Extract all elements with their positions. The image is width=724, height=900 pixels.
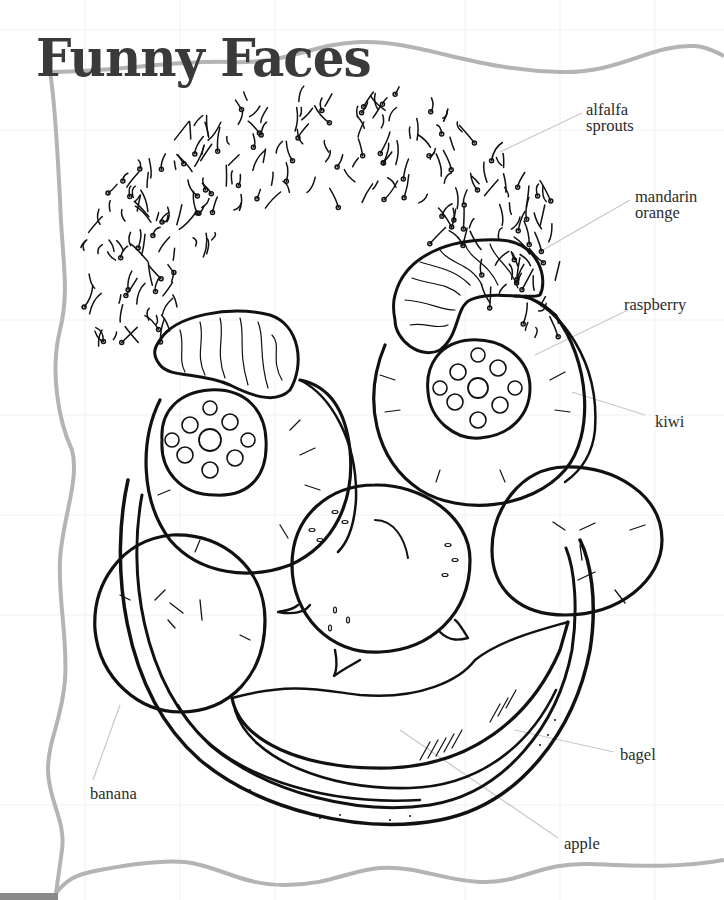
sprout-strand	[148, 262, 152, 285]
coloring-page: Funny Faces alfalfa sprouts mandarin ora…	[0, 0, 724, 900]
sprout-strand	[389, 108, 397, 121]
sprout-strand	[481, 284, 490, 303]
sprout-strand	[265, 192, 280, 208]
banana-slice-icon-right	[492, 467, 662, 615]
sprout-strand	[109, 201, 110, 212]
sprout-strand	[469, 219, 474, 228]
label-mandarin-orange: mandarin orange	[635, 189, 697, 221]
sprout-strand	[238, 111, 242, 125]
apple-wedge-icon	[232, 622, 568, 788]
sprout-strand	[231, 171, 232, 184]
label-apple: apple	[564, 836, 600, 852]
sprout-strand	[122, 327, 138, 342]
label-bagel: bagel	[620, 747, 656, 763]
sprout-strand	[261, 108, 268, 123]
sprout-strand	[129, 232, 131, 245]
sprout-strand	[534, 213, 541, 229]
sprout-strand	[177, 155, 192, 172]
label-alfalfa-sprouts: alfalfa sprouts	[586, 102, 634, 134]
sprout-strand	[418, 135, 431, 148]
sprout-strand	[419, 194, 428, 203]
sprout-strand	[98, 245, 102, 254]
sprout-strand	[524, 221, 529, 244]
sprout-strand	[122, 210, 125, 221]
mandarin-segment-icon-left	[155, 311, 298, 397]
mandarin-segment-icon-right	[394, 240, 543, 353]
alfalfa-sprouts-icon	[81, 86, 560, 346]
sprout-strand	[535, 328, 537, 338]
sprout-strand	[381, 115, 383, 128]
sprout-strand	[500, 205, 503, 226]
sprout-strand	[276, 141, 282, 153]
sprout-strand	[286, 163, 288, 182]
leader-banana	[93, 705, 120, 780]
sprout-strand	[194, 116, 203, 126]
sprout-strand	[300, 108, 301, 117]
sprout-strand	[156, 213, 158, 221]
sprout-strand	[535, 232, 542, 251]
sprout-strand	[295, 107, 297, 131]
sprout-strand	[403, 159, 408, 179]
sprout-strand	[217, 128, 219, 152]
sprout-strand	[179, 212, 196, 229]
kiwi-slice-icon-left	[146, 380, 356, 573]
sprout-strand	[375, 94, 379, 110]
sprout-strand	[272, 172, 274, 185]
sprout-strand	[549, 224, 552, 242]
sprout-strand	[193, 238, 196, 246]
sprout-strand	[522, 269, 533, 290]
sprout-strand	[307, 177, 315, 192]
sprout-strand	[227, 136, 229, 144]
sprout-strand	[330, 188, 339, 207]
label-banana: banana	[90, 786, 137, 802]
sprout-strand	[250, 106, 260, 117]
sprout-strand	[499, 284, 506, 295]
sprout-strand	[509, 203, 511, 215]
label-kiwi: kiwi	[655, 414, 684, 430]
raspberry-icon-left	[162, 390, 266, 495]
sprout-strand	[163, 298, 173, 314]
sprout-strand	[498, 228, 502, 239]
sprout-strand	[173, 248, 174, 260]
raspberry-icon-right	[428, 340, 530, 438]
sprout-strand	[540, 181, 551, 202]
sprout-strand	[396, 141, 398, 165]
sprout-strand	[384, 181, 398, 200]
sprout-strand	[358, 122, 364, 137]
wavy-frame	[48, 42, 724, 893]
sprout-strand	[89, 274, 95, 288]
sprout-strand	[90, 293, 102, 314]
sprout-strand	[484, 162, 487, 182]
sprout-strand	[286, 141, 292, 161]
sprout-strand	[409, 127, 410, 138]
sprout-strand	[463, 207, 464, 229]
sprout-strand	[207, 115, 209, 135]
sprout-strand	[417, 118, 418, 140]
sprout-strand	[436, 154, 441, 176]
sprout-strand	[229, 155, 240, 166]
sprout-strand	[159, 237, 170, 252]
kiwi-slice-icon-right	[374, 296, 596, 505]
sprout-strand	[325, 94, 332, 106]
sprout-strand	[202, 199, 209, 208]
label-raspberry: raspberry	[624, 297, 686, 313]
sprout-strand	[119, 295, 121, 303]
sprout-strand	[460, 125, 475, 142]
apple-nose-icon	[278, 485, 470, 676]
leader-mandarin	[543, 200, 630, 250]
sprout-strand	[496, 157, 502, 165]
sprout-strand	[127, 172, 139, 187]
corner-tab	[0, 893, 58, 900]
page-title: Funny Faces	[36, 27, 371, 89]
sprout-strand	[132, 186, 135, 197]
sprout-strand	[212, 233, 216, 240]
sprout-strand	[490, 287, 491, 308]
sprout-strand	[353, 158, 359, 167]
background-grid	[0, 0, 724, 900]
sprout-strand	[299, 86, 304, 101]
leader-bagel	[515, 730, 614, 752]
leader-alfalfa	[500, 113, 582, 152]
sprout-strand	[190, 122, 191, 139]
leader-raspberry	[535, 310, 628, 355]
sprout-strand	[149, 159, 151, 178]
